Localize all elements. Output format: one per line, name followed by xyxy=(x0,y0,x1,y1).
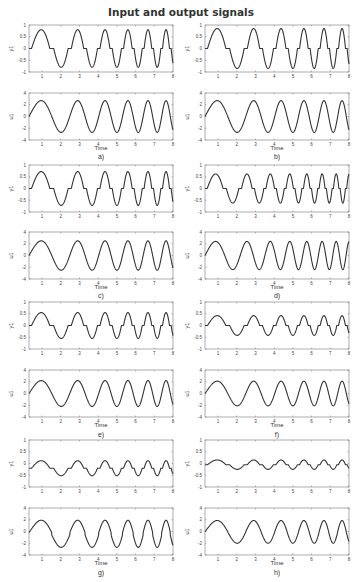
x-tick-label: 8 xyxy=(348,557,351,562)
y1-axes: 1234567810.50-0.5-1y1 xyxy=(8,23,175,79)
x-tick-label: 2 xyxy=(60,419,63,424)
x-tick-label: 5 xyxy=(292,489,295,494)
x-tick-label: 8 xyxy=(348,142,351,147)
y-tick-label: 0 xyxy=(199,323,202,328)
x-tick-label: 6 xyxy=(134,419,137,424)
y-tick-label: -0.5 xyxy=(194,198,202,203)
y-tick-label: 0.5 xyxy=(196,311,203,316)
y-tick-label: 4 xyxy=(199,368,202,373)
y-tick-label: -0.5 xyxy=(18,198,26,203)
y-axis-label: y1 xyxy=(8,461,14,467)
x-tick-label: 4 xyxy=(273,214,276,219)
x-tick-label: 7 xyxy=(153,74,156,79)
y-axis-label: u1 xyxy=(8,528,14,534)
x-tick-label: 5 xyxy=(292,557,295,562)
x-tick-label: 1 xyxy=(41,419,44,424)
x-tick-label: 4 xyxy=(97,142,100,147)
x-tick-label: 8 xyxy=(348,281,351,286)
y-axis-label: u1 xyxy=(8,252,14,258)
x-tick-label: 5 xyxy=(116,419,119,424)
x-tick-label: 4 xyxy=(97,214,100,219)
x-tick-label: 3 xyxy=(254,281,257,286)
y-axis-label: y1 xyxy=(184,186,190,192)
y1-axes: 1234567810.50-0.5-1y1 xyxy=(184,300,351,356)
u1-axes: 12345678420-2-4u1 xyxy=(184,368,351,424)
x-tick-label: 7 xyxy=(329,281,332,286)
y-tick-label: 0 xyxy=(23,529,26,534)
x-tick-label: 1 xyxy=(217,557,220,562)
y-tick-label: 0 xyxy=(23,46,26,51)
y1-axes: 1234567810.50-0.5-1y1 xyxy=(184,23,351,79)
y-tick-label: 2 xyxy=(199,102,202,107)
y-tick-label: 1 xyxy=(199,23,202,28)
x-tick-label: 5 xyxy=(292,74,295,79)
x-tick-label: 4 xyxy=(97,351,100,356)
x-tick-label: 6 xyxy=(310,281,313,286)
y-tick-label: 0 xyxy=(23,391,26,396)
x-tick-label: 7 xyxy=(153,419,156,424)
x-tick-label: 2 xyxy=(236,557,239,562)
y-tick-label: 1 xyxy=(199,438,202,443)
x-tick-label: 3 xyxy=(78,351,81,356)
x-tick-label: 1 xyxy=(41,281,44,286)
x-tick-label: 3 xyxy=(254,557,257,562)
signal-panel-f: 1234567810.50-0.5-1y112345678420-2-4u1Ti… xyxy=(0,0,362,582)
y-tick-label: -2 xyxy=(22,265,26,270)
u1-signal-line xyxy=(29,381,173,407)
x-tick-label: 4 xyxy=(273,419,276,424)
axes-box xyxy=(29,508,173,555)
x-tick-label: 3 xyxy=(254,489,257,494)
signal-panel-d: 1234567810.50-0.5-1y112345678420-2-4u1Ti… xyxy=(0,0,362,582)
x-tick-label: 1 xyxy=(41,142,44,147)
x-tick-label: 3 xyxy=(78,214,81,219)
x-tick-label: 2 xyxy=(236,142,239,147)
y-tick-label: 0.5 xyxy=(20,174,27,179)
x-tick-label: 1 xyxy=(217,489,220,494)
panel-label: b) xyxy=(274,153,280,161)
axes-box xyxy=(205,302,349,349)
x-tick-label: 7 xyxy=(153,489,156,494)
x-tick-label: 2 xyxy=(60,489,63,494)
y-tick-label: 0.5 xyxy=(196,449,203,454)
x-tick-label: 3 xyxy=(78,142,81,147)
x-tick-label: 4 xyxy=(273,74,276,79)
y-tick-label: -0.5 xyxy=(18,473,26,478)
x-tick-label: 3 xyxy=(254,351,257,356)
y-tick-label: 0.5 xyxy=(20,449,27,454)
y-tick-label: -1 xyxy=(22,347,26,352)
x-tick-label: 8 xyxy=(172,557,175,562)
x-tick-label: 5 xyxy=(116,557,119,562)
y-tick-label: 4 xyxy=(23,230,26,235)
u1-axes: 12345678420-2-4u1 xyxy=(8,506,175,562)
y-tick-label: -4 xyxy=(198,553,202,558)
y-tick-label: 0 xyxy=(23,461,26,466)
x-tick-label: 3 xyxy=(78,419,81,424)
y-tick-label: 1 xyxy=(199,163,202,168)
axes-box xyxy=(205,508,349,555)
x-tick-label: 8 xyxy=(348,489,351,494)
y-tick-label: 4 xyxy=(199,230,202,235)
x-tick-label: 5 xyxy=(116,74,119,79)
x-tick-label: 4 xyxy=(97,419,100,424)
y-tick-label: 2 xyxy=(23,102,26,107)
x-tick-label: 7 xyxy=(153,281,156,286)
x-tick-label: 4 xyxy=(273,489,276,494)
x-tick-label: 5 xyxy=(116,489,119,494)
y-axis-label: u1 xyxy=(184,252,190,258)
u1-axes: 12345678420-2-4u1 xyxy=(8,230,175,286)
x-tick-label: 6 xyxy=(134,351,137,356)
x-tick-label: 7 xyxy=(329,489,332,494)
y-tick-label: 0 xyxy=(23,114,26,119)
x-tick-label: 2 xyxy=(236,419,239,424)
x-tick-label: 1 xyxy=(217,351,220,356)
y-tick-label: 0 xyxy=(199,391,202,396)
y-tick-label: 2 xyxy=(199,517,202,522)
x-tick-label: 7 xyxy=(153,557,156,562)
signal-panel-b: 1234567810.50-0.5-1y112345678420-2-4u1Ti… xyxy=(0,0,362,582)
x-tick-label: 1 xyxy=(217,214,220,219)
x-axis-label: Time xyxy=(270,284,284,290)
x-tick-label: 7 xyxy=(329,214,332,219)
axes-box xyxy=(29,25,173,72)
u1-axes: 12345678420-2-4u1 xyxy=(8,368,175,424)
x-tick-label: 6 xyxy=(134,74,137,79)
